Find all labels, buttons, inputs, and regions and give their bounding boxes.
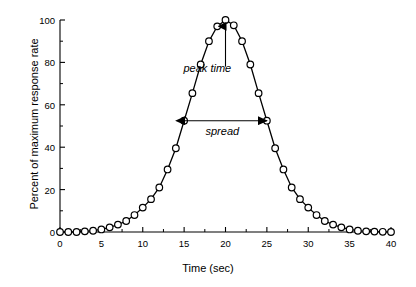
data-point-marker <box>65 229 72 236</box>
x-tick-label: 30 <box>303 238 314 249</box>
y-axis-label: Percent of maximum response rate <box>28 24 40 224</box>
data-point-marker <box>338 224 345 231</box>
data-point-marker <box>388 229 395 236</box>
spread-label: spread <box>206 125 240 137</box>
data-point-marker <box>131 212 138 219</box>
data-point-marker <box>305 204 312 211</box>
data-point-marker <box>156 184 163 191</box>
data-point-marker <box>57 229 64 236</box>
x-tick-label: 20 <box>220 238 231 249</box>
data-point-marker <box>371 228 378 235</box>
data-point-marker <box>222 17 229 24</box>
data-point-marker <box>189 90 196 97</box>
data-point-marker <box>297 196 304 203</box>
data-point-marker <box>288 184 295 191</box>
x-tick-label: 25 <box>262 238 273 249</box>
data-point-marker <box>239 38 246 45</box>
peak-time-label: peak time <box>184 62 232 74</box>
data-point-marker <box>90 227 97 234</box>
data-point-marker <box>330 221 337 228</box>
data-point-marker <box>214 23 221 30</box>
data-point-marker <box>346 226 353 233</box>
data-point-marker <box>272 145 279 152</box>
data-point-marker <box>164 166 171 173</box>
x-axis-label: Time (sec) <box>0 262 416 274</box>
x-tick-label: 15 <box>179 238 190 249</box>
x-tick-label: 0 <box>57 238 62 249</box>
data-point-marker <box>255 90 262 97</box>
data-point-marker <box>322 218 329 225</box>
x-tick-label: 40 <box>386 238 397 249</box>
data-point-marker <box>123 218 130 225</box>
data-point-marker <box>355 227 362 234</box>
chart-figure: 0510152025303540 020406080100 Percent of… <box>0 0 416 287</box>
x-tick-label: 35 <box>344 238 355 249</box>
data-point-marker <box>106 224 113 231</box>
data-point-marker <box>73 229 80 236</box>
data-point-marker <box>98 226 105 233</box>
data-point-marker <box>313 212 320 219</box>
data-point-marker <box>247 61 254 68</box>
data-point-marker <box>173 145 180 152</box>
x-tick-label: 5 <box>99 238 104 249</box>
data-point-marker <box>206 38 213 45</box>
x-tick-label: 10 <box>137 238 148 249</box>
data-point-marker <box>148 196 155 203</box>
data-point-marker <box>379 228 386 235</box>
data-point-marker <box>139 204 146 211</box>
data-point-marker <box>280 166 287 173</box>
data-point-marker <box>363 228 370 235</box>
y-tick-label: 0 <box>29 227 55 238</box>
data-point-marker <box>115 221 122 228</box>
data-point-marker <box>230 22 237 29</box>
data-point-marker <box>82 228 89 235</box>
